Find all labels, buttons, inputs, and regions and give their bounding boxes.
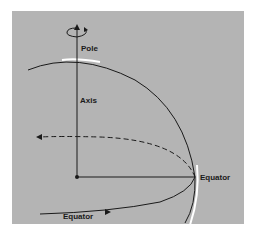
- equator-bottom-label: Equator: [63, 212, 93, 221]
- axis-label: Axis: [80, 96, 97, 105]
- equator-right-label: Equator: [200, 173, 230, 182]
- diagram-canvas: [0, 0, 257, 239]
- pole-label: Pole: [81, 44, 98, 53]
- equator-back-dashed: [40, 137, 195, 178]
- equator-back-arrowhead-icon: [36, 134, 42, 140]
- sphere-outline: [28, 62, 195, 223]
- equator-front-solid: [40, 177, 195, 214]
- axis-arrow-icon: [74, 24, 80, 30]
